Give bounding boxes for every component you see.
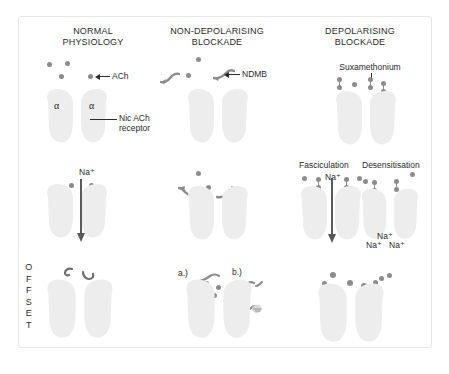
- ach-molecule: [363, 179, 368, 184]
- column-title-non-depolarising-blockade: NON-DEPOLARISING BLOCKADE: [152, 26, 282, 48]
- ach-callout-line: [100, 76, 110, 77]
- fasciculation-label: Fasciculation: [299, 160, 349, 170]
- nicotinic-ach-receptor: [44, 278, 116, 340]
- figure-canvas: NORMAL PHYSIOLOGY NON-DEPOLARISING BLOCK…: [0, 0, 449, 374]
- ach-molecule: [410, 172, 415, 177]
- hydrolysed-ach-fragment: [63, 267, 75, 278]
- ndmb-fragment-icon: [255, 280, 263, 288]
- nicotinic-ach-receptor: [183, 278, 255, 340]
- offset-letter: T: [22, 320, 36, 332]
- ach-molecule: [186, 73, 191, 78]
- na-pool-label-left: Na⁺: [366, 240, 382, 250]
- alpha-subunit-label-left: α: [54, 100, 59, 111]
- offset-letter: S: [22, 297, 36, 309]
- nicotinic-ach-receptor: [315, 282, 387, 344]
- suxamethonium-cleared: [387, 273, 392, 278]
- ach-molecule: [59, 74, 64, 79]
- nicotinic-ach-receptor: [44, 183, 110, 239]
- na-pool-label-right: Na⁺: [389, 240, 405, 250]
- ach-molecule: [47, 62, 52, 67]
- na-influx-label-col3: Na⁺: [325, 172, 341, 182]
- column-title-depolarising-blockade: DEPOLARISING BLOCKADE: [300, 26, 420, 48]
- offset-letter: E: [22, 308, 36, 320]
- suxamethonium-cleared: [330, 272, 336, 278]
- offset-letter: F: [22, 285, 36, 297]
- alpha-subunit-label-right: α: [89, 100, 94, 111]
- offset-step-a-label: a.): [178, 268, 188, 278]
- nicotinic-ach-receptor: [185, 185, 251, 241]
- na-influx-label-col1: Na⁺: [79, 167, 95, 177]
- receptor-callout-line: [90, 119, 117, 120]
- suxamethonium-label: Suxamethonium: [320, 62, 420, 72]
- offset-letter: F: [22, 274, 36, 286]
- offset-letter: O: [22, 262, 36, 274]
- ndmb-label: NDMB: [242, 69, 267, 79]
- ach-label: ACh: [112, 71, 129, 81]
- nicotinic-ach-receptor: [185, 88, 251, 144]
- nicotinic-ach-receptor: [333, 90, 399, 146]
- nic-ach-receptor-label: Nic ACh receptor: [119, 113, 150, 133]
- ach-molecule: [357, 176, 362, 181]
- ndmb-molecule-icon: [160, 71, 180, 85]
- ndmb-callout-line: [229, 74, 240, 75]
- suxamethonium-cleared: [379, 276, 384, 281]
- ach-molecule: [352, 82, 357, 87]
- desensitisation-label: Desensitisation: [362, 160, 420, 170]
- ach-molecule: [88, 74, 93, 79]
- ach-molecule: [65, 61, 70, 66]
- ach-molecule: [196, 171, 201, 176]
- offset-step-b-label: b.): [232, 267, 242, 277]
- nicotinic-ach-receptor: [44, 88, 110, 144]
- ach-molecule: [302, 176, 307, 181]
- offset-row-label: O F F S E T: [22, 262, 36, 331]
- ach-molecule: [196, 57, 201, 62]
- column-title-normal-physiology: NORMAL PHYSIOLOGY: [38, 26, 148, 48]
